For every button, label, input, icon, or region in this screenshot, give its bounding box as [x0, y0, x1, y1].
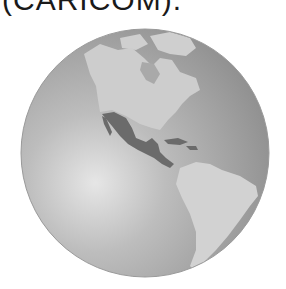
globe-illustration: [0, 0, 286, 289]
